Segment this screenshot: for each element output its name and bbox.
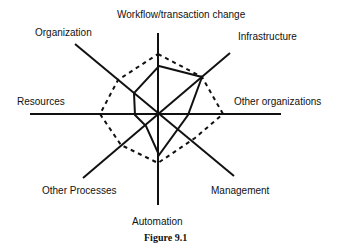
axis-label-workflow: Workflow/transaction change: [117, 9, 245, 20]
axis-infrastructure-other-processes: [83, 53, 230, 178]
axis-label-other-processes: Other Processes: [42, 185, 116, 196]
axis-label-automation: Automation: [132, 216, 183, 227]
axis-label-other-organizations: Other organizations: [234, 96, 321, 107]
axis-organization-management: [75, 44, 234, 176]
axis-label-infrastructure: Infrastructure: [238, 31, 297, 42]
figure-caption: Figure 9.1: [144, 232, 187, 243]
axes: [30, 33, 281, 205]
axis-label-organization: Organization: [35, 27, 92, 38]
axis-label-management: Management: [211, 185, 269, 196]
axis-label-resources: Resources: [17, 96, 65, 107]
